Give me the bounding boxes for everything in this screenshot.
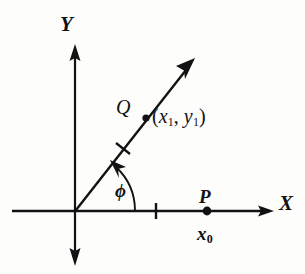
point-p-coordinate-label: x0 — [197, 224, 213, 245]
point-p-dot — [203, 207, 212, 216]
coord-open-paren: ( — [152, 105, 159, 127]
coord-y-var: y — [184, 105, 193, 127]
ray-arrowhead — [176, 58, 195, 79]
y-axis-label: Y — [60, 14, 73, 35]
point-q-dot — [142, 114, 149, 121]
coord-close-paren: ) — [199, 105, 206, 127]
point-q-coordinate-label: (x1, y1) — [152, 106, 206, 128]
point-p-label: P — [199, 187, 211, 206]
point-q-label: Q — [116, 97, 130, 117]
x0-var: x — [197, 223, 207, 244]
angle-phi-label: ϕ — [115, 181, 126, 200]
diagram-canvas — [0, 0, 305, 274]
x-axis-label: X — [279, 193, 293, 214]
coord-comma: , — [174, 105, 179, 127]
x0-subscript: 0 — [207, 232, 213, 246]
coordinate-diagram: Y X Q (x1, y1) P x0 ϕ — [0, 0, 305, 274]
coord-x-var: x — [159, 105, 168, 127]
